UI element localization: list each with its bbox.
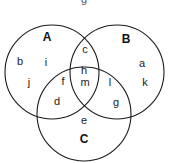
- element-label-i: i: [45, 56, 47, 68]
- element-label-l: l: [109, 76, 111, 88]
- element-label-d: d: [54, 95, 60, 107]
- cropped-top-text: g: [81, 0, 87, 5]
- element-label-j: j: [27, 76, 30, 88]
- element-label-f: f: [61, 75, 65, 87]
- venn-diagram: g ABC bijchmfdaklge: [0, 0, 175, 163]
- set-label-a: A: [43, 30, 52, 44]
- element-label-g: g: [113, 96, 119, 108]
- element-label-e: e: [81, 114, 87, 126]
- element-label-m: m: [80, 76, 89, 88]
- element-label-h: h: [81, 64, 87, 76]
- element-label-k: k: [142, 76, 148, 88]
- element-label-a: a: [139, 57, 146, 69]
- element-label-b: b: [17, 55, 23, 67]
- set-label-c: C: [80, 132, 89, 146]
- set-label-b: B: [122, 32, 131, 46]
- element-label-c: c: [82, 43, 88, 55]
